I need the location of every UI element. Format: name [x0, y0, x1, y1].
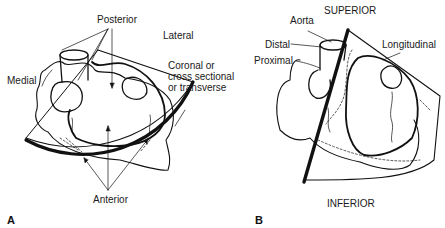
- panel-b-drawing: [277, 30, 440, 182]
- label-inferior: INFERIOR: [327, 198, 375, 209]
- label-longitudinal: Longitudinal: [382, 39, 436, 50]
- panel-letter-b: B: [255, 214, 263, 226]
- panel-letter-a: A: [7, 214, 15, 226]
- label-medial: Medial: [7, 75, 36, 86]
- label-superior: SUPERIOR: [324, 5, 376, 16]
- label-posterior: Posterior: [97, 14, 137, 25]
- heart-imaging-planes-diagram: [0, 0, 445, 228]
- label-aorta: Aorta: [290, 15, 314, 26]
- label-lateral: Lateral: [163, 30, 194, 41]
- label-proximal: Proximal: [254, 55, 293, 66]
- label-coronal-plane: Coronal or cross sectional or transverse: [168, 60, 234, 93]
- label-distal: Distal: [265, 39, 290, 50]
- panel-a-drawing: [26, 29, 193, 190]
- label-anterior: Anterior: [93, 194, 128, 205]
